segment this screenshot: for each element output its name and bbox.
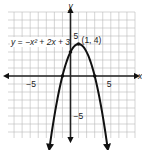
parabola-chart: x y −555−5 (1, 4) y = −x² + 2x + 3 (0, 0, 142, 150)
curve-point (61, 74, 65, 78)
grid (8, 12, 135, 138)
y-tick-label: 5 (73, 31, 78, 41)
y-tick-label: −5 (73, 111, 83, 121)
equation-label: y = −x² + 2x + 3 (10, 37, 70, 47)
x-tick-label: −5 (26, 79, 36, 89)
curve-point (93, 74, 97, 78)
curve-point (69, 50, 73, 54)
x-tick-label: 5 (107, 79, 112, 89)
x-axis-label: x (137, 71, 142, 81)
curve-point (77, 42, 81, 46)
vertex-label: (1, 4) (82, 35, 102, 45)
y-axis-label: y (67, 1, 73, 11)
